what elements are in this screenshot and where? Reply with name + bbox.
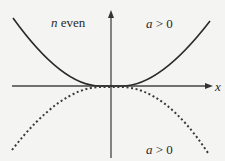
graph-canvas [0,0,225,161]
even-text: even [58,15,86,30]
x-axis-label: x [215,80,221,93]
label-a-bottom: a > 0 [146,143,173,156]
a-condition-text: > 0 [153,16,173,31]
a-condition-text: > 0 [153,142,173,157]
x-axis-arrow-icon [205,83,213,89]
label-a-top: a > 0 [146,17,173,30]
diagram: n even a > 0 a > 0 x [0,0,225,161]
label-n-even: n even [51,16,85,29]
dotted-curve [12,87,208,153]
y-axis-arrow-icon [108,10,114,18]
